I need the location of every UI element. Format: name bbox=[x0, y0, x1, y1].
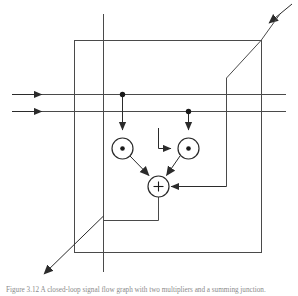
diagonal-top-right-to-riser bbox=[227, 41, 262, 79]
bracket-feed-right-multiplier bbox=[159, 128, 172, 149]
figure-caption: Figure 3.12 A closed-loop signal flow gr… bbox=[6, 286, 296, 295]
diagonal-arrow-out-bottom-left bbox=[44, 216, 104, 274]
link-multiplier-right-to-sum bbox=[167, 156, 181, 176]
summing-junction[interactable] bbox=[148, 176, 169, 197]
multiplier-right[interactable] bbox=[178, 138, 199, 159]
figure-root: Figure 3.12 A closed-loop signal flow gr… bbox=[0, 0, 298, 296]
multiplier-right-dot-icon bbox=[186, 146, 191, 151]
output-from-summing-junction bbox=[104, 197, 159, 221]
tap-dot-lower bbox=[186, 109, 191, 114]
signal-flow-diagram bbox=[0, 0, 298, 296]
diagonal-tail-top-right bbox=[261, 14, 280, 41]
plant-boundary-box bbox=[75, 41, 262, 253]
diagonal-arrow-in-top-right bbox=[269, 4, 292, 23]
link-multiplier-left-to-sum bbox=[130, 156, 149, 176]
multiplier-left[interactable] bbox=[112, 138, 133, 159]
multiplier-left-dot-icon bbox=[120, 146, 125, 151]
tap-dot-upper bbox=[120, 92, 125, 97]
